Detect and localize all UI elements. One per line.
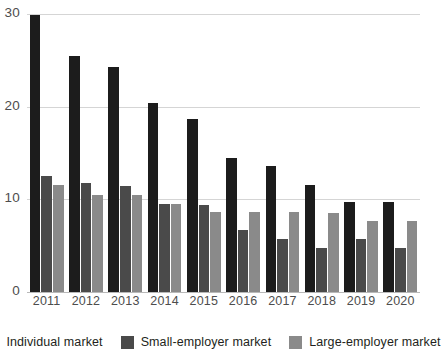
bar-2012-series-1[interactable] — [81, 183, 92, 292]
y-tick-label: 30 — [5, 5, 20, 20]
bars-layer — [27, 14, 420, 292]
legend-label: Individual market — [6, 335, 102, 349]
x-tick-label-2015: 2015 — [190, 294, 219, 308]
bar-2018-series-0[interactable] — [305, 185, 316, 292]
bar-2015-series-2[interactable] — [210, 212, 221, 292]
legend-label: Large-employer market — [309, 335, 440, 349]
bar-2019-series-1[interactable] — [356, 239, 367, 292]
bar-2019-series-0[interactable] — [344, 202, 355, 292]
bar-2016-series-1[interactable] — [238, 230, 249, 292]
x-tick-label-2014: 2014 — [150, 294, 179, 308]
bar-2016-series-0[interactable] — [226, 158, 237, 292]
bar-2013-series-1[interactable] — [120, 186, 131, 292]
bar-2020-series-2[interactable] — [407, 221, 418, 292]
bar-2018-series-1[interactable] — [316, 248, 327, 292]
bar-2017-series-1[interactable] — [277, 239, 288, 292]
legend-item[interactable]: Individual market — [0, 335, 103, 349]
bar-2015-series-1[interactable] — [199, 205, 210, 292]
bar-2015-series-0[interactable] — [187, 119, 198, 292]
y-tick-label: 10 — [5, 191, 20, 206]
y-tick-label: 0 — [12, 283, 20, 298]
bar-group-2014 — [148, 14, 182, 292]
y-tick-label: 20 — [5, 98, 20, 113]
bar-2011-series-2[interactable] — [53, 185, 64, 292]
bar-2014-series-1[interactable] — [159, 204, 170, 292]
bar-2012-series-2[interactable] — [92, 195, 103, 292]
x-axis: 2011201220132014201520162017201820192020 — [27, 294, 420, 314]
legend-label: Small-employer market — [141, 335, 272, 349]
plot-area: 0102030 — [27, 14, 420, 292]
bar-2013-series-2[interactable] — [132, 195, 143, 292]
bar-2011-series-0[interactable] — [30, 15, 41, 292]
bar-group-2015 — [187, 14, 221, 292]
x-tick-label-2013: 2013 — [111, 294, 140, 308]
bar-2014-series-2[interactable] — [171, 204, 182, 292]
legend-item[interactable]: Small-employer market — [121, 335, 272, 349]
legend-item[interactable]: Large-employer market — [289, 335, 440, 349]
bar-2019-series-2[interactable] — [367, 221, 378, 292]
chart-legend: Individual marketSmall-employer marketLa… — [0, 330, 427, 354]
x-tick-label-2017: 2017 — [268, 294, 297, 308]
bar-group-2012 — [69, 14, 103, 292]
bar-2017-series-0[interactable] — [266, 166, 277, 292]
x-tick-label-2018: 2018 — [307, 294, 336, 308]
bar-2016-series-2[interactable] — [249, 212, 260, 292]
bar-2017-series-2[interactable] — [289, 212, 300, 292]
bar-group-2018 — [305, 14, 339, 292]
bar-group-2016 — [226, 14, 260, 292]
bar-2020-series-1[interactable] — [395, 248, 406, 292]
legend-swatch-icon — [121, 336, 134, 349]
bar-2020-series-0[interactable] — [383, 202, 394, 292]
bar-2011-series-1[interactable] — [41, 176, 52, 292]
gridline-0: 0 — [27, 292, 420, 293]
x-tick-label-2012: 2012 — [72, 294, 101, 308]
x-tick-label-2016: 2016 — [229, 294, 258, 308]
bar-2013-series-0[interactable] — [108, 67, 119, 292]
bar-group-2013 — [108, 14, 142, 292]
bar-2012-series-0[interactable] — [69, 56, 80, 292]
bar-group-2020 — [383, 14, 417, 292]
x-tick-label-2011: 2011 — [33, 294, 61, 308]
bar-2014-series-0[interactable] — [148, 103, 159, 292]
bar-group-2017 — [266, 14, 300, 292]
bar-group-2011 — [30, 14, 64, 292]
bar-2018-series-2[interactable] — [328, 213, 339, 292]
legend-swatch-icon — [289, 336, 302, 349]
x-tick-label-2019: 2019 — [347, 294, 376, 308]
x-tick-label-2020: 2020 — [386, 294, 415, 308]
bar-group-2019 — [344, 14, 378, 292]
